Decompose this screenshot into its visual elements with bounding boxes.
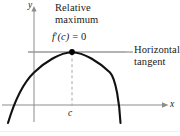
relative-maximum-line-2: maximum — [55, 14, 98, 25]
horizontal-tangent-line-1: Horizontal — [134, 44, 180, 55]
derivative-argument: (c) — [57, 31, 69, 42]
y-axis-label: y — [28, 0, 32, 11]
annotation-horizontal-tangent: Horizontaltangent — [134, 44, 180, 68]
x-axis — [2, 102, 169, 108]
annotation-relative-maximum: Relativemaximum — [55, 2, 98, 26]
x-axis-label: x — [170, 99, 174, 110]
derivative-equals-zero: = 0 — [69, 31, 86, 42]
x-axis-arrow-icon — [162, 102, 169, 108]
parabola-curve — [8, 52, 121, 123]
relative-maximum-line-1: Relative — [55, 2, 91, 13]
horizontal-tangent-line-2: tangent — [134, 56, 166, 67]
annotation-derivative-equation: f′(c) = 0 — [52, 31, 86, 43]
x-tick-label-c: c — [68, 108, 72, 119]
vertex-point-marker — [69, 49, 75, 55]
relative-maximum-figure: Relativemaximum f′(c) = 0 Horizontaltang… — [0, 0, 180, 136]
